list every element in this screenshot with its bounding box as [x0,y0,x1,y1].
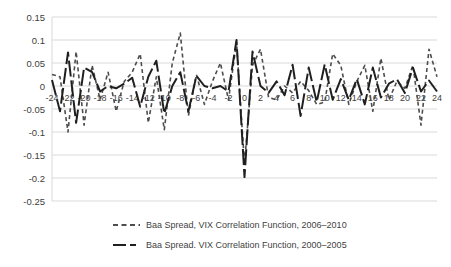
svg-text:14: 14 [352,93,362,103]
correlation-chart-figure: 0.150.10.050-0.05-0.1-0.15-0.2-0.25-24-2… [0,0,451,267]
svg-text:20: 20 [400,93,410,103]
svg-text:-0.05: -0.05 [23,104,45,115]
svg-text:0.1: 0.1 [32,35,45,46]
long-dash-line-marker-icon [112,240,141,250]
legend-label-2000-2005: Baa Spread. VIX Correlation Function, 20… [146,240,347,250]
svg-text:16: 16 [368,93,378,103]
svg-text:-0.25: -0.25 [23,196,45,207]
svg-text:-4: -4 [208,93,216,103]
dashed-line-marker-icon [112,220,141,230]
svg-text:2: 2 [258,93,263,103]
svg-text:0: 0 [242,93,247,103]
legend-item-2006-2010: Baa Spread, VIX Correlation Function, 20… [112,219,347,230]
svg-text:24: 24 [432,93,442,103]
svg-text:8: 8 [306,93,311,103]
line-chart: 0.150.10.050-0.05-0.1-0.15-0.2-0.25-24-2… [0,0,451,212]
svg-text:0.15: 0.15 [27,12,46,23]
svg-text:-8: -8 [176,93,184,103]
svg-text:0: 0 [40,81,45,92]
svg-text:0.05: 0.05 [27,58,46,69]
legend-item-2000-2005: Baa Spread. VIX Correlation Function, 20… [112,239,347,250]
chart-legend: Baa Spread, VIX Correlation Function, 20… [112,219,347,250]
svg-text:6: 6 [290,93,295,103]
svg-text:-0.2: -0.2 [29,173,45,184]
svg-text:-6: -6 [192,93,200,103]
svg-text:-0.1: -0.1 [29,127,45,138]
svg-text:12: 12 [336,93,346,103]
legend-label-2006-2010: Baa Spread, VIX Correlation Function, 20… [146,220,347,230]
svg-text:-0.15: -0.15 [23,150,45,161]
